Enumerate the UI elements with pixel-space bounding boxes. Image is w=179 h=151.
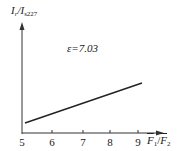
x-axis-label: F1/F2: [147, 135, 171, 148]
x-tick-label: 8: [107, 137, 113, 148]
annotation: ε=7.03: [67, 43, 98, 54]
data-line: [25, 83, 142, 123]
y-axis-arrow-icon: [20, 22, 25, 30]
chart-canvas: [0, 0, 179, 151]
x-tick-label: 9: [135, 137, 141, 148]
y-axis-label: Ir/Is227: [11, 5, 37, 18]
x-tick-label: 7: [80, 137, 86, 148]
x-tick-label: 5: [19, 137, 25, 148]
x-tick-label: 6: [49, 137, 55, 148]
